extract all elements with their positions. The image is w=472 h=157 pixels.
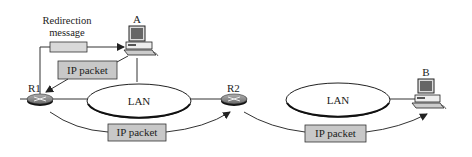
redirection-box xyxy=(50,42,87,52)
packet-arrow xyxy=(46,79,68,92)
lan-1-label: LAN xyxy=(128,95,151,107)
host-b: B xyxy=(412,66,446,109)
computer-icon xyxy=(124,26,158,56)
packet-label: IP packet xyxy=(315,127,356,139)
packet-label: IP packet xyxy=(117,126,158,138)
redirection-label-line1: Redirection xyxy=(43,15,93,26)
packet-label: IP packet xyxy=(67,64,108,76)
host-b-label: B xyxy=(422,66,429,78)
lan-1: LAN xyxy=(87,84,191,118)
lan-2: LAN xyxy=(286,83,390,117)
redirection-label-line2: message xyxy=(49,27,85,38)
computer-icon xyxy=(412,79,446,109)
host-a-label: A xyxy=(133,13,141,25)
host-a: A xyxy=(124,13,158,56)
redirection-message: Redirection message xyxy=(40,15,124,94)
router-r1-label: R1 xyxy=(28,82,41,94)
diagram-canvas: LAN LAN R1 R2 A B xyxy=(0,0,472,157)
router-r2-label: R2 xyxy=(227,82,240,94)
lan-2-label: LAN xyxy=(327,94,350,106)
router-r2: R2 xyxy=(221,82,247,106)
